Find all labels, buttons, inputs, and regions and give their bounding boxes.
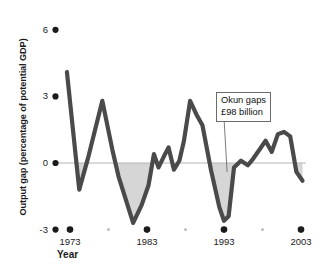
y-tick-dot [52, 93, 58, 99]
x-axis-title: Year [57, 249, 78, 260]
y-axis-title: Output gap (percentage of potential GDP) [18, 22, 28, 232]
y-tick-dot [52, 27, 58, 33]
y-tick-label: 6 [28, 24, 48, 35]
y-tick-label: 0 [28, 157, 48, 168]
x-axis-minor-tick-dots [107, 228, 264, 231]
y-tick-dot [52, 227, 58, 233]
y-axis-tick-dots [52, 27, 58, 233]
x-tick-dot [144, 226, 151, 233]
x-tick-label: 1983 [127, 236, 167, 247]
x-tick-dot [298, 226, 305, 233]
x-tick-label: 2003 [281, 236, 321, 247]
x-tick-dot [67, 226, 74, 233]
x-tick-label: 1973 [50, 236, 90, 247]
okun-gaps-callout: Okun gaps £98 billion [216, 92, 271, 122]
y-tick-dot [52, 160, 58, 166]
x-tick-label: 1993 [204, 236, 244, 247]
chart-plot-area [0, 0, 330, 273]
y-tick-label: 3 [28, 90, 48, 101]
y-tick-label: -3 [28, 224, 48, 235]
x-tick-dot [221, 226, 228, 233]
output-gap-chart: 630-3 1973198319932003 Output gap (perce… [0, 0, 330, 273]
callout-line-1: Okun gaps [221, 95, 266, 107]
x-minor-tick-dot [184, 228, 187, 231]
x-minor-tick-dot [261, 228, 264, 231]
x-minor-tick-dot [107, 228, 110, 231]
callout-line-2: £98 billion [221, 107, 266, 119]
